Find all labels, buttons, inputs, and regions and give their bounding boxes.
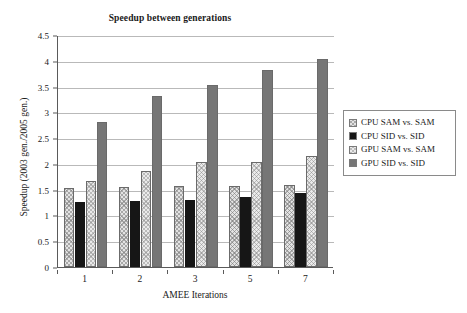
- legend-item: CPU SID vs. SID: [349, 130, 451, 144]
- legend-label: GPU SAM vs. SAM: [361, 145, 435, 154]
- bar: [306, 156, 317, 267]
- x-tick-mark: [57, 270, 58, 274]
- legend-label: CPU SID vs. SID: [361, 132, 425, 141]
- bar: [185, 200, 196, 267]
- y-tick-label: 2.5: [38, 134, 49, 144]
- x-tick-label: 1: [82, 274, 87, 284]
- x-axis: 12357: [57, 270, 333, 290]
- y-axis: 00.511.522.533.544.5: [0, 36, 57, 268]
- bar: [295, 193, 306, 267]
- x-tick-mark: [278, 270, 279, 274]
- legend-swatch: [349, 132, 357, 140]
- bar: [207, 85, 218, 267]
- bar: [240, 197, 251, 267]
- y-tick-label: 0.5: [38, 237, 49, 247]
- x-tick-label: 2: [137, 274, 142, 284]
- legend-swatch: [349, 159, 357, 167]
- gridline: [58, 113, 334, 114]
- y-tick-label: 3.5: [38, 83, 49, 93]
- y-tick-label: 1: [45, 211, 50, 221]
- bar: [130, 201, 141, 267]
- legend-item: GPU SID vs. SID: [349, 157, 451, 171]
- gridline: [58, 88, 334, 89]
- x-tick-label: 5: [248, 274, 253, 284]
- chart-legend: CPU SAM vs. SAMCPU SID vs. SIDGPU SAM vs…: [343, 110, 456, 176]
- bar: [75, 202, 86, 267]
- y-tick-label: 4.5: [38, 31, 49, 41]
- bar: [119, 187, 130, 267]
- plot-area: [57, 36, 333, 268]
- bar: [174, 186, 185, 267]
- legend-swatch: [349, 119, 357, 127]
- legend-item: CPU SAM vs. SAM: [349, 116, 451, 130]
- bar: [262, 70, 273, 267]
- x-axis-title: AMEE Iterations: [57, 290, 333, 300]
- x-tick-mark: [333, 270, 334, 274]
- chart-figure: Speedup between generations Speedup (200…: [0, 0, 467, 313]
- bar: [64, 188, 75, 267]
- y-tick-label: 3: [45, 108, 50, 118]
- bar: [229, 186, 240, 267]
- bar: [152, 96, 163, 267]
- legend-swatch: [349, 146, 357, 154]
- gridline: [58, 62, 334, 63]
- y-tick-label: 2: [45, 160, 50, 170]
- bar: [196, 162, 207, 267]
- bar: [86, 181, 97, 267]
- y-tick-label: 0: [45, 263, 50, 273]
- bar: [284, 185, 295, 267]
- legend-label: GPU SID vs. SID: [361, 159, 425, 168]
- bar: [251, 162, 262, 267]
- gridline: [58, 36, 334, 37]
- x-tick-mark: [112, 270, 113, 274]
- legend-item: GPU SAM vs. SAM: [349, 143, 451, 157]
- x-tick-mark: [223, 270, 224, 274]
- x-tick-label: 7: [303, 274, 308, 284]
- bar: [97, 122, 108, 267]
- y-tick-label: 1.5: [38, 186, 49, 196]
- bar: [317, 59, 328, 267]
- chart-title: Speedup between generations: [0, 13, 340, 23]
- x-tick-mark: [167, 270, 168, 274]
- y-tick-label: 4: [45, 57, 50, 67]
- legend-label: CPU SAM vs. SAM: [361, 118, 435, 127]
- bar: [141, 171, 152, 267]
- x-tick-label: 3: [193, 274, 198, 284]
